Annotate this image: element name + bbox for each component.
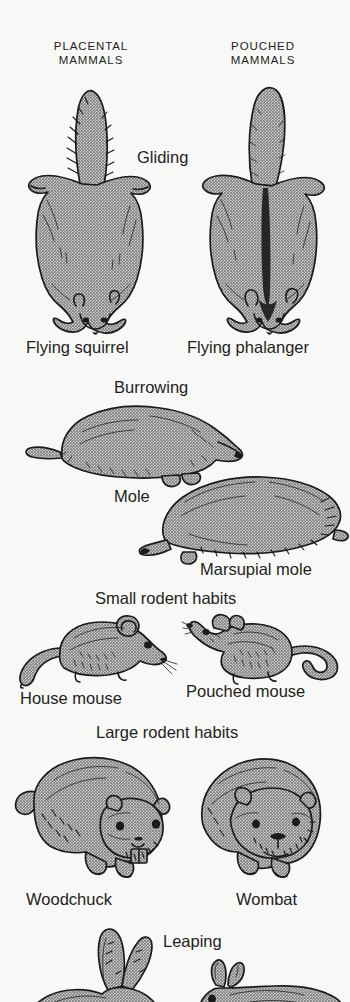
- habit-label-burrowing: Burrowing: [114, 378, 188, 397]
- species-label-pouched-mouse: Pouched mouse: [186, 682, 305, 701]
- illustration-marsupial-leaper: [196, 955, 350, 1002]
- column-header-pouched-line2: MAMMALS: [198, 54, 328, 68]
- species-label-wombat: Wombat: [236, 890, 297, 909]
- column-header-pouched-line1: POUCHED: [198, 40, 328, 54]
- illustration-pouched-mouse: [182, 608, 347, 688]
- illustration-marsupial-mole: [135, 468, 350, 573]
- illustration-flying-squirrel: [12, 88, 162, 343]
- illustration-flying-phalanger: [188, 84, 338, 342]
- illustration-rabbit: [30, 928, 205, 1002]
- species-label-house-mouse: House mouse: [20, 689, 122, 708]
- habit-label-large-rodent: Large rodent habits: [96, 723, 238, 742]
- species-label-marsupial-mole: Marsupial mole: [200, 560, 312, 579]
- column-header-pouched: POUCHED MAMMALS: [198, 40, 328, 67]
- column-header-placental: PLACENTAL MAMMALS: [26, 40, 156, 67]
- habit-label-small-rodent: Small rodent habits: [95, 589, 236, 608]
- species-label-flying-squirrel: Flying squirrel: [26, 338, 129, 357]
- illustration-wombat: [186, 752, 341, 880]
- illustration-woodchuck: [14, 752, 174, 880]
- column-header-placental-line2: MAMMALS: [26, 54, 156, 68]
- illustration-house-mouse: [14, 612, 179, 692]
- column-header-placental-line1: PLACENTAL: [26, 40, 156, 54]
- species-label-flying-phalanger: Flying phalanger: [187, 338, 309, 357]
- species-label-woodchuck: Woodchuck: [26, 890, 112, 909]
- convergent-evolution-figure: PLACENTAL MAMMALS POUCHED MAMMALS Glidin…: [0, 0, 350, 1002]
